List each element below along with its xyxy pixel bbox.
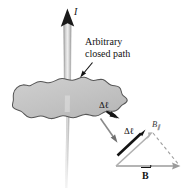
b-parallel-subscript: ∥ <box>157 124 160 130</box>
closed-path-label-line2: closed path <box>85 48 130 59</box>
leader-arrow-to-path <box>80 63 92 78</box>
physics-diagram-amperes-law: I Arbitrary closed path Δℓ Δℓ B∥ B <box>0 0 187 190</box>
wire-lower-section <box>65 108 70 188</box>
b-field-label: B <box>142 170 149 181</box>
b-parallel-vector <box>116 132 153 166</box>
b-parallel-label: B∥ <box>152 120 160 130</box>
dashed-projection-line <box>153 133 179 165</box>
b-field-vector <box>116 162 181 169</box>
delta-l-label-on-path: Δℓ <box>99 100 109 110</box>
current-label: I <box>74 6 77 17</box>
diagram-canvas <box>0 0 187 190</box>
leader-arrow-to-triangle <box>101 119 118 143</box>
delta-l-label-in-triangle: Δℓ <box>124 126 134 136</box>
closed-path-label-line1: Arbitrary <box>85 36 122 47</box>
b-field-label-text: B <box>142 170 149 181</box>
